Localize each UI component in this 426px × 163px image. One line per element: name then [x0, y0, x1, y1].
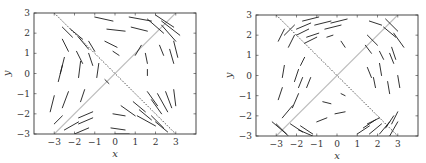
x-tick-label: −2 — [290, 139, 303, 149]
vector-segment — [323, 102, 331, 104]
vector-segment — [357, 126, 369, 134]
vector-segment — [62, 27, 72, 37]
vector-segment — [64, 122, 78, 130]
vector-segment — [166, 92, 172, 108]
y-tick-label: −2 — [17, 109, 30, 119]
vector-segment — [62, 39, 68, 51]
vector-segment — [58, 65, 62, 81]
vector-segment — [398, 76, 400, 88]
y-tick-label: 1 — [246, 50, 252, 60]
vector-segment — [341, 94, 345, 96]
vector-segment — [325, 25, 341, 29]
vector-segment — [75, 128, 89, 134]
vector-segment — [365, 45, 371, 53]
y-axis-label: y — [223, 72, 234, 79]
y-tick-label: 3 — [24, 8, 30, 18]
vector-segment — [111, 128, 125, 130]
y-tick-label: −3 — [239, 131, 253, 141]
x-tick-label: −1 — [310, 139, 323, 149]
figure: −3−2−10123−3−2−10123xy −3−2−10123−3−2−10… — [0, 0, 426, 163]
x-tick-label: −1 — [88, 137, 101, 147]
vector-segment — [369, 124, 381, 134]
vector-segment — [282, 65, 284, 77]
vector-segment — [81, 90, 85, 102]
vector-segment — [135, 45, 141, 55]
right-quiver-plot: −3−2−10123−3−2−10123xy — [223, 10, 418, 161]
vector-segment — [113, 51, 119, 55]
y-tick-label: −3 — [17, 129, 31, 139]
vector-segment — [327, 35, 333, 37]
vector-segment — [297, 29, 309, 35]
vector-segment — [299, 78, 303, 88]
vector-segment — [79, 118, 93, 124]
vector-segment — [79, 61, 81, 77]
vector-segment — [278, 29, 284, 41]
x-tick-label: −3 — [48, 137, 62, 147]
vector-segment — [107, 29, 125, 31]
y-tick-label: −1 — [17, 89, 30, 99]
vector-segment — [174, 90, 176, 106]
y-tick-label: 3 — [246, 10, 252, 20]
vector-segment — [50, 96, 54, 112]
x-tick-label: 0 — [334, 139, 340, 149]
vector-segment — [158, 94, 168, 112]
vector-segment — [129, 17, 151, 21]
y-tick-label: −2 — [239, 111, 252, 121]
vector-segment — [307, 33, 319, 37]
y-tick-label: 1 — [24, 48, 30, 58]
vector-segment — [317, 118, 327, 122]
vector-segment — [77, 51, 83, 63]
vector-segment — [394, 33, 404, 47]
vector-segment — [315, 21, 331, 25]
vector-segment — [89, 41, 95, 51]
y-tick-label: 0 — [24, 69, 30, 79]
vector-segment — [151, 100, 161, 114]
vector-segment — [305, 37, 317, 43]
left-quiver-plot: −3−2−10123−3−2−10123xy — [1, 8, 196, 159]
y-tick-label: 2 — [24, 28, 30, 38]
vector-segment — [292, 94, 298, 108]
y-axis-label: y — [1, 70, 12, 77]
vector-segment — [131, 27, 147, 31]
vector-segment — [297, 23, 311, 29]
vector-segment — [301, 126, 313, 134]
vector-segment — [282, 106, 292, 118]
vector-segment — [380, 63, 382, 75]
x-tick-label: 1 — [132, 137, 138, 147]
plot-area — [272, 15, 404, 136]
x-tick-label: 3 — [395, 139, 401, 149]
vector-segment — [89, 53, 93, 65]
vector-segment — [156, 122, 168, 132]
plot-area — [50, 13, 180, 134]
vector-segment — [390, 122, 398, 136]
x-tick-label: 1 — [354, 139, 360, 149]
vector-segment — [151, 116, 163, 128]
vector-segment — [284, 25, 294, 35]
vector-segment — [294, 69, 298, 81]
vector-segment — [307, 78, 311, 88]
vector-segment — [373, 78, 375, 88]
x-tick-label: −3 — [270, 139, 284, 149]
vector-segment — [331, 19, 347, 23]
x-tick-label: 0 — [112, 137, 118, 147]
vector-segment — [392, 47, 396, 59]
vector-segment — [79, 37, 89, 49]
vector-segment — [97, 63, 99, 77]
vector-segment — [380, 51, 384, 59]
vector-segment — [384, 27, 396, 37]
vector-segment — [95, 17, 113, 21]
vector-segment — [388, 82, 390, 94]
vector-segment — [174, 41, 178, 57]
vector-segment — [335, 112, 345, 114]
vector-segment — [367, 67, 371, 77]
vector-segment — [367, 118, 379, 124]
vector-segment — [341, 41, 345, 47]
x-tick-label: 3 — [173, 137, 179, 147]
vector-segment — [288, 35, 294, 47]
vector-segment — [170, 49, 174, 63]
x-axis-label: x — [334, 150, 340, 161]
vector-segment — [79, 112, 93, 118]
x-axis-label: x — [112, 148, 118, 159]
x-tick-label: −2 — [68, 137, 81, 147]
x-tick-label: 2 — [153, 137, 159, 147]
